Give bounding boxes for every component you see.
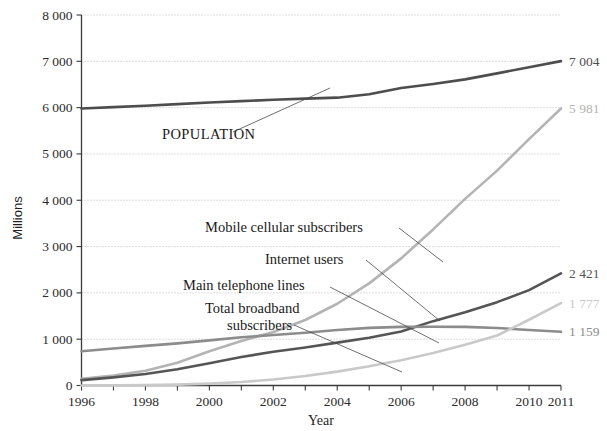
axes-group [82, 15, 562, 386]
y-tick-label-7000: 7 000 [42, 54, 73, 69]
y-tick-label-5000: 5 000 [42, 146, 73, 161]
annotation-main-telephone-lines: Main telephone lines [183, 277, 305, 293]
y-tick-label-2000: 2 000 [42, 285, 73, 300]
annotation-mobile-cellular-subscribers: Mobile cellular subscribers [205, 219, 363, 235]
x-tick-label-2004: 2004 [324, 394, 351, 409]
y-tick-label-6000: 6 000 [42, 100, 73, 115]
leader-line-internet [366, 260, 440, 321]
leader-line-mobile [399, 228, 443, 262]
end-value-label-mobile-cellular-subscribers: 5 981 [569, 101, 599, 116]
y-tick-marks-group [77, 15, 82, 386]
end-value-labels-group: 7 0045 9812 4211 1591 777 [569, 54, 600, 340]
y-tick-label-8000: 8 000 [42, 8, 73, 23]
end-value-label-main-telephone-lines: 1 159 [569, 324, 600, 339]
y-tick-labels-group: 01 0002 0003 0004 0005 0006 0007 0008 00… [42, 8, 73, 394]
x-tick-label-2002: 2002 [260, 394, 287, 409]
y-axis-title: Millions [10, 196, 25, 240]
y-tick-label-0: 0 [66, 378, 73, 393]
annotation-internet-users: Internet users [265, 251, 344, 267]
y-tick-label-4000: 4 000 [42, 193, 73, 208]
y-tick-label-1000: 1 000 [42, 332, 73, 347]
line-chart-canvas: 01 0002 0003 0004 0005 0006 0007 0008 00… [0, 0, 607, 431]
end-value-label-population: 7 004 [569, 54, 600, 69]
x-tick-label-2008: 2008 [452, 394, 479, 409]
x-tick-label-2000: 2000 [196, 394, 223, 409]
x-tick-label-1996: 1996 [68, 394, 95, 409]
chart-figure: 01 0002 0003 0004 0005 0006 0007 0008 00… [0, 0, 607, 431]
annotation-total-broadband-line1: Total broadband [205, 300, 300, 316]
leader-line-broadband [294, 325, 402, 372]
x-tick-label-2010: 2010 [516, 394, 543, 409]
annotation-population: POPULATION [162, 126, 256, 142]
end-value-label-internet-users: 2 421 [569, 266, 599, 281]
y-tick-label-3000: 3 000 [42, 239, 73, 254]
x-tick-label-2006: 2006 [388, 394, 415, 409]
annotation-total-broadband-line2: subscribers [227, 317, 293, 333]
x-axis-title: Year [308, 413, 334, 428]
x-tick-label-2011: 2011 [548, 394, 575, 409]
x-tick-label-1998: 1998 [132, 394, 159, 409]
series-annotations-group: POPULATION Mobile cellular subscribers I… [162, 126, 363, 333]
end-value-label-total-broadband-subscribers: 1 777 [569, 296, 600, 311]
x-tick-labels-group: 199619982000200220042006200820102011 [68, 394, 574, 409]
series-line-population [82, 61, 562, 108]
